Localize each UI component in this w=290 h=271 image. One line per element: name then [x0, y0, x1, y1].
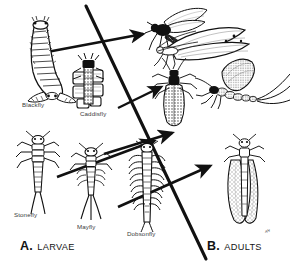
label-blackfly: Blackfly	[22, 101, 44, 108]
section-letter-a: A.	[20, 239, 33, 253]
arrow-blackfly-to-adult	[47, 34, 143, 52]
corner-artifact-mark: ᴀᴴ	[265, 228, 270, 234]
arrow-stonefly-to-adult	[104, 133, 172, 154]
caddisfly-larva-illustration	[73, 53, 104, 108]
mayfly-adult-illustration	[195, 59, 290, 109]
arrow-mayfly-to-adult	[57, 141, 154, 177]
caddisfly-adult-illustration	[151, 58, 197, 126]
stonefly-larva-illustration	[16, 131, 60, 214]
blackfly-larva-illustration	[28, 16, 76, 103]
section-word-larvae: LARVAE	[37, 242, 74, 252]
dobsonfly-larva-illustration	[129, 141, 165, 232]
insect-life-cycle-figure: Blackfly Caddisfly Stonefly Mayfly Dobso…	[0, 0, 290, 271]
section-label-larvae: A. LARVAE	[20, 236, 75, 254]
section-letter-b: B.	[207, 239, 220, 253]
label-stonefly: Stonefly	[14, 211, 37, 218]
section-word-adults: ADULTS	[224, 242, 261, 252]
section-label-adults: B. ADULTS	[207, 236, 262, 254]
label-mayfly: Mayfly	[77, 223, 95, 230]
label-dobsonfly: Dobsonfly	[127, 230, 155, 237]
label-caddisfly: Caddisfly	[80, 110, 106, 117]
dobsonfly-adult-illustration	[224, 134, 265, 223]
